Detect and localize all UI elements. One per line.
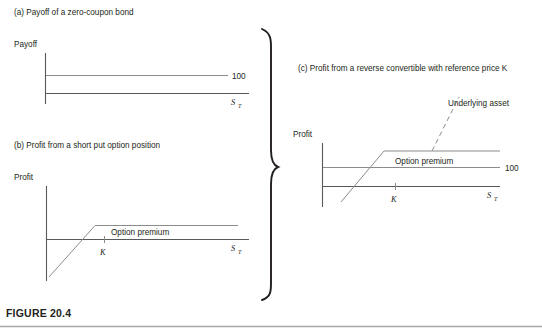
figure-number-label: FIGURE 20.4 <box>6 307 71 319</box>
panel-b-x-axis-label: S <box>231 244 236 253</box>
panel-b: (b) Profit from a short put option posit… <box>14 141 249 281</box>
panel-b-y-axis-label: Profit <box>14 173 34 182</box>
panel-a-value-100: 100 <box>232 72 246 81</box>
panel-c-underlying-asset-label: Underlying asset <box>448 99 510 108</box>
panel-b-caption: (b) Profit from a short put option posit… <box>14 141 161 150</box>
panel-b-strike-label: K <box>99 248 106 257</box>
panel-b-option-premium-label: Option premium <box>111 228 169 237</box>
panel-c-strike-label: K <box>390 195 397 204</box>
grouping-brace <box>262 29 278 300</box>
panel-a-x-axis-subscript: T <box>238 103 242 109</box>
panel-c-x-axis-subscript: T <box>494 196 498 202</box>
figure-container: (a) Payoff of a zero-coupon bond Payoff … <box>0 0 542 331</box>
panel-c: (c) Profit from a reverse convertible wi… <box>293 64 519 207</box>
panel-b-x-axis-subscript: T <box>238 249 242 255</box>
panel-c-value-100: 100 <box>505 164 519 173</box>
panel-c-option-premium-label: Option premium <box>395 157 453 166</box>
panel-a-x-axis-label: S <box>231 98 236 107</box>
panel-a: (a) Payoff of a zero-coupon bond Payoff … <box>14 8 249 109</box>
panel-a-y-axis-label: Payoff <box>14 40 38 49</box>
panel-c-y-axis-label: Profit <box>293 130 313 139</box>
figure-footer: FIGURE 20.4 <box>0 307 542 327</box>
panel-c-x-axis-label: S <box>487 191 492 200</box>
figure-svg: (a) Payoff of a zero-coupon bond Payoff … <box>0 0 542 331</box>
panel-a-caption: (a) Payoff of a zero-coupon bond <box>14 8 134 17</box>
panel-c-caption: (c) Profit from a reverse convertible wi… <box>298 64 508 73</box>
